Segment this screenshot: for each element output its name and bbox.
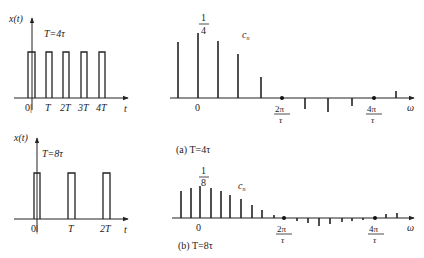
panel-b-time-plot: x(t) T=8τ 0| T 2T t (13, 132, 128, 235)
tick-T: T (45, 102, 52, 113)
tick-2T: 2T (60, 102, 72, 113)
tick-2T: 2T (100, 223, 112, 234)
zero-label: 0 (196, 222, 201, 233)
ylabel-xt: x(t) (8, 13, 24, 25)
xlabel-t: t (124, 103, 127, 114)
tick-4pi-den: τ (371, 115, 375, 125)
spectral-lines (178, 33, 396, 112)
caption-b: (b) T=8τ (178, 240, 213, 252)
zero-label: 0 (195, 102, 200, 113)
origin-label: 0| (25, 102, 32, 113)
tick-4pi-num: 4π (369, 224, 379, 234)
xlabel-omega: ω (407, 222, 414, 233)
pulse (63, 52, 69, 98)
tick-2pi-num: 2π (275, 104, 285, 114)
pulse (103, 173, 110, 219)
caption-a: (a) T=4τ (176, 144, 210, 156)
peak-num: 1 (201, 165, 206, 176)
pulse (81, 52, 87, 98)
pulse-train (28, 52, 105, 98)
coef-label: cn (242, 29, 249, 41)
xlabel-t: t (124, 224, 127, 235)
figure-canvas: x(t) T=4τ 0| T 2T 3T 4T t (0, 0, 424, 258)
zero-crossing-dot (373, 216, 377, 220)
pulse (46, 52, 52, 98)
period-label: T=4τ (44, 28, 65, 39)
panel-a-time-plot: x(t) T=4τ 0| T 2T 3T 4T t (8, 13, 128, 114)
ylabel-xt: x(t) (13, 132, 29, 144)
tick-2pi-den: τ (281, 235, 285, 245)
tick-4T: 4T (96, 102, 108, 113)
zero-crossing-dot (372, 96, 376, 100)
zero-crossing-dot (282, 216, 286, 220)
tick-2pi-num: 2π (277, 224, 287, 234)
coef-label: cn (238, 180, 245, 192)
peak-num: 1 (201, 12, 206, 23)
panel-b-spectrum: 1 8 cn 0 2π τ 4π τ ω (172, 165, 414, 245)
tick-3T: 3T (77, 102, 90, 113)
peak-den: 8 (201, 177, 206, 188)
panel-a-spectrum: 1 4 cn 0 2π τ 4π τ ω (170, 12, 414, 125)
pulse (99, 52, 105, 98)
period-label: T=8τ (42, 148, 63, 159)
pulse (68, 173, 75, 219)
zero-crossing-dot (280, 96, 284, 100)
tick-4pi-num: 4π (367, 104, 377, 114)
tick-2pi-den: τ (279, 115, 283, 125)
spectral-lines (181, 186, 397, 226)
xlabel-omega: ω (407, 102, 414, 113)
peak-den: 4 (201, 25, 206, 36)
origin-label: 0| (31, 223, 38, 234)
tick-T: T (68, 223, 75, 234)
pulse-train (34, 173, 110, 219)
tick-4pi-den: τ (373, 235, 377, 245)
